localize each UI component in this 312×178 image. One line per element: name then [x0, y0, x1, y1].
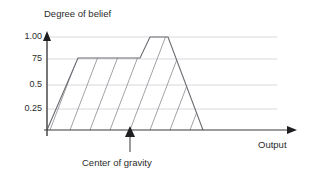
chart-figure: Degree of belief 1.00 75 0.5 0.25 Output…	[0, 0, 312, 178]
x-axis	[44, 126, 297, 134]
chart-plot-area	[0, 0, 312, 178]
membership-function-outline	[47, 37, 203, 130]
y-axis	[43, 31, 51, 136]
